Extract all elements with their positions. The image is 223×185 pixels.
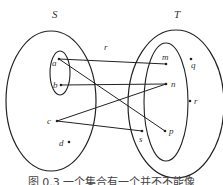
relation-diagram: S T r a b c d m n p s q r [0,0,223,185]
mapping-arrows [57,59,166,131]
element-r-label: r [194,96,198,106]
element-p-label: p [168,126,174,136]
set-s-ellipse [6,31,96,171]
relation-label: r [104,42,108,52]
element-n-label: n [171,79,176,89]
set-t-label: T [174,8,181,20]
figure-caption: 图 0.3 一个集合有一个并不不能像 [0,173,223,185]
element-s-label: s [139,134,143,144]
set-s-label: S [52,8,58,20]
element-m-label: m [162,52,169,62]
element-a-label: a [52,58,57,68]
element-q-label: q [191,60,196,70]
element-c-label: c [47,116,51,126]
element-b-label: b [53,80,58,90]
element-d-label: d [59,138,64,148]
